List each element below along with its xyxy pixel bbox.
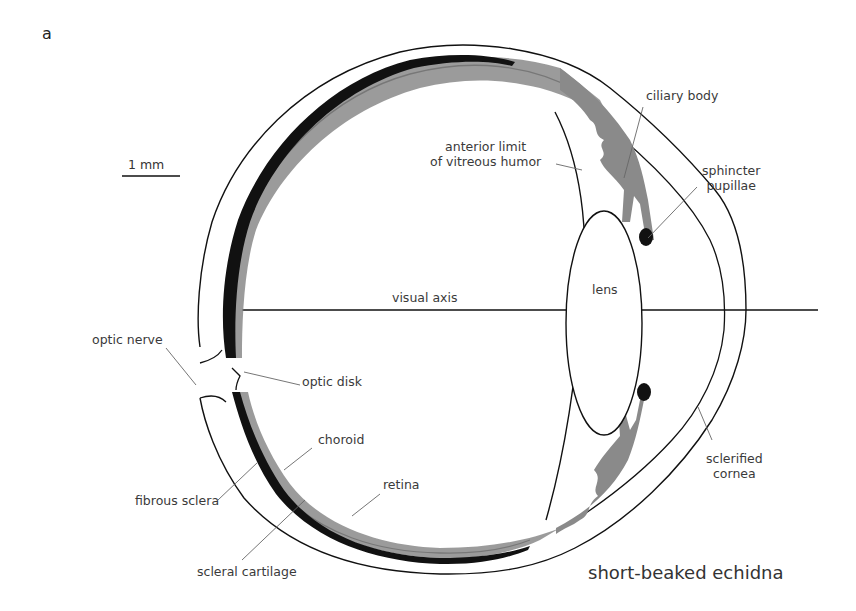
label-sclerified-line2: cornea bbox=[706, 466, 763, 481]
sphincter-pupillae-lower bbox=[637, 383, 651, 401]
label-anterior-limit: anterior limit of vitreous humor bbox=[430, 139, 541, 169]
leader-optic-disk bbox=[244, 372, 300, 385]
scale-bar-label: 1 mm bbox=[128, 157, 164, 172]
sphincter-pupillae-upper bbox=[639, 228, 653, 246]
label-choroid: choroid bbox=[318, 432, 364, 447]
label-sclerified-line1: sclerified bbox=[706, 451, 763, 466]
echidna-eye-diagram bbox=[0, 0, 856, 611]
label-optic-disk: optic disk bbox=[302, 374, 362, 389]
label-anterior-limit-line1: anterior limit bbox=[430, 139, 541, 154]
lens-shape bbox=[566, 211, 642, 435]
label-sphincter-pupillae: sphincter pupillae bbox=[702, 163, 760, 193]
label-sclerified-cornea: sclerified cornea bbox=[706, 451, 763, 481]
species-title: short-beaked echidna bbox=[588, 562, 784, 583]
label-anterior-limit-line2: of vitreous humor bbox=[430, 154, 541, 169]
leader-sphincter bbox=[648, 187, 697, 238]
label-lens: lens bbox=[592, 282, 618, 297]
label-optic-nerve: optic nerve bbox=[92, 332, 163, 347]
optic-disk bbox=[232, 368, 240, 390]
label-sphincter-line2: pupillae bbox=[702, 178, 760, 193]
sclera-outer-lower bbox=[200, 310, 746, 574]
sclera-inner-upper bbox=[230, 65, 580, 350]
leader-retina bbox=[352, 494, 380, 516]
label-fibrous-sclera: fibrous sclera bbox=[135, 493, 219, 508]
leader-choroid bbox=[284, 448, 312, 470]
label-scleral-cartilage: scleral cartilage bbox=[197, 564, 297, 579]
leader-scleral-cartilage bbox=[242, 500, 305, 560]
optic-nerve-bottom bbox=[200, 396, 226, 402]
label-visual-axis: visual axis bbox=[392, 290, 457, 305]
label-retina: retina bbox=[383, 477, 420, 492]
panel-letter: a bbox=[42, 24, 52, 43]
label-sphincter-line1: sphincter bbox=[702, 163, 760, 178]
leader-anterior-limit bbox=[556, 164, 582, 170]
leader-fibrous-sclera bbox=[218, 462, 258, 500]
leader-optic-nerve bbox=[166, 348, 196, 385]
choroid-upper bbox=[225, 57, 610, 358]
optic-nerve-top bbox=[200, 350, 222, 363]
label-ciliary-body: ciliary body bbox=[646, 88, 718, 103]
